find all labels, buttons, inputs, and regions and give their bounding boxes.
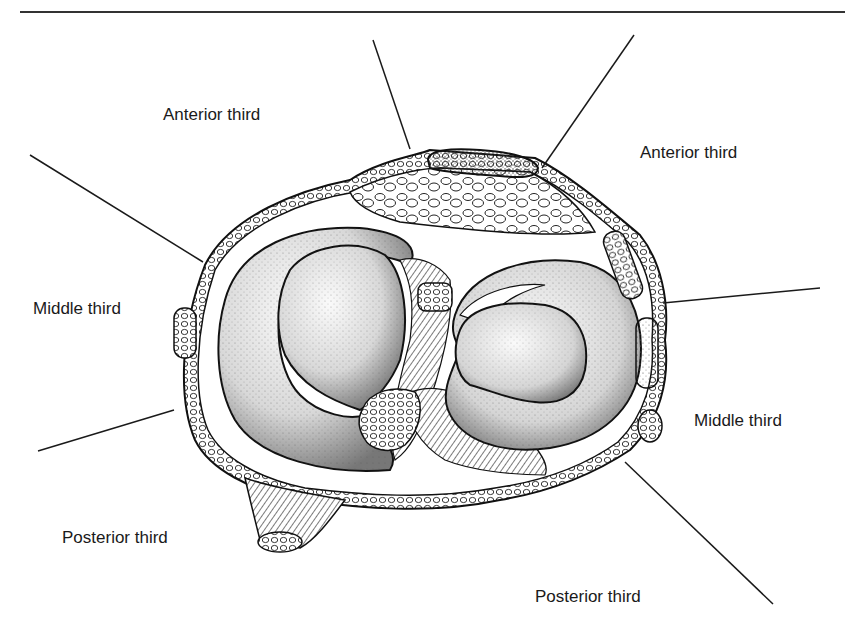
medial-collateral-bundle bbox=[174, 308, 196, 358]
label-anterior-third-right: Anterior third bbox=[640, 143, 737, 163]
popliteus-tendon bbox=[638, 410, 662, 442]
lateral-collateral-bundle-middle bbox=[636, 318, 658, 388]
leader-line-middle-left-bottom bbox=[38, 410, 174, 451]
leader-line-anterior-left bbox=[373, 40, 410, 149]
label-posterior-third-left: Posterior third bbox=[62, 528, 168, 548]
anterior-horn-attachment bbox=[418, 283, 452, 311]
leader-line-anterior-right bbox=[542, 35, 634, 168]
label-middle-third-left: Middle third bbox=[33, 299, 121, 319]
leader-line-middle-right bbox=[663, 288, 820, 303]
leader-line-posterior-right bbox=[625, 462, 773, 604]
label-middle-third-right: Middle third bbox=[694, 411, 782, 431]
leader-line-middle-left-top bbox=[30, 155, 203, 262]
label-anterior-third-left: Anterior third bbox=[163, 105, 260, 125]
label-posterior-third-right: Posterior third bbox=[535, 587, 641, 607]
